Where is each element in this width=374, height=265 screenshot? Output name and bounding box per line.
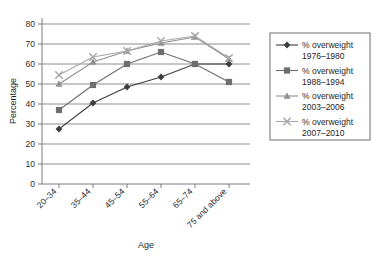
legend-label-line2: 2007–2010	[302, 128, 345, 138]
marker-square	[124, 61, 130, 67]
y-ticklabel: 30	[26, 119, 36, 129]
y-ticklabel: 20	[26, 139, 36, 149]
marker-square	[158, 49, 164, 55]
legend-label-line2: 1976–1980	[302, 51, 345, 61]
marker-square	[226, 79, 232, 85]
y-ticklabel: 60	[26, 59, 36, 69]
legend-label-line2: 1988–1994	[302, 77, 345, 87]
marker-square	[90, 82, 96, 88]
x-ticklabel: 35–44	[69, 186, 93, 210]
y-ticklabels: 80 70 60 50 40 30 20 10 0	[26, 19, 36, 189]
chart-figure: 80 70 60 50 40 30 20 10 0 20–34 35–44 45…	[0, 0, 374, 265]
y-ticklabel: 70	[26, 39, 36, 49]
y-ticklabel: 40	[26, 99, 36, 109]
y-axis-title: Percentage	[8, 78, 18, 124]
y-ticklabel: 80	[26, 19, 36, 29]
series-0	[56, 61, 233, 133]
chart-svg: 80 70 60 50 40 30 20 10 0 20–34 35–44 45…	[0, 0, 374, 265]
series-line	[59, 52, 229, 110]
marker-square	[192, 61, 198, 67]
series-2	[56, 33, 233, 87]
y-ticklabel: 50	[26, 79, 36, 89]
legend-label-line1: % overweight	[302, 40, 354, 50]
series-line	[59, 64, 229, 129]
series-3	[55, 32, 232, 78]
series-line	[59, 36, 229, 75]
x-ticklabels: 20–34 35–44 45–54 55–64 65–74 75 and abo…	[35, 186, 229, 230]
legend-label-line1: % overweight	[302, 91, 354, 101]
legend-label-line1: % overweight	[302, 117, 354, 127]
legend: % overweight1976–1980% overweight1988–19…	[270, 33, 370, 140]
y-tickmarks	[38, 24, 42, 184]
series-layer	[55, 32, 232, 132]
x-ticklabel: 20–34	[35, 186, 59, 210]
y-ticklabel: 0	[30, 179, 35, 189]
marker-square	[56, 107, 62, 113]
marker-diamond	[124, 84, 131, 91]
x-ticklabel: 65–74	[171, 186, 195, 210]
marker-triangle	[56, 80, 63, 87]
legend-label-line1: % overweight	[302, 66, 354, 76]
x-ticklabel: 45–54	[103, 186, 127, 210]
marker-square	[284, 67, 290, 73]
marker-diamond	[158, 74, 165, 81]
y-ticklabel: 10	[26, 159, 36, 169]
x-ticklabel: 55–64	[137, 186, 161, 210]
x-axis-title: Age	[138, 240, 154, 250]
series-1	[56, 49, 232, 113]
legend-label-line2: 2003–2006	[302, 102, 345, 112]
marker-cross	[55, 71, 62, 78]
